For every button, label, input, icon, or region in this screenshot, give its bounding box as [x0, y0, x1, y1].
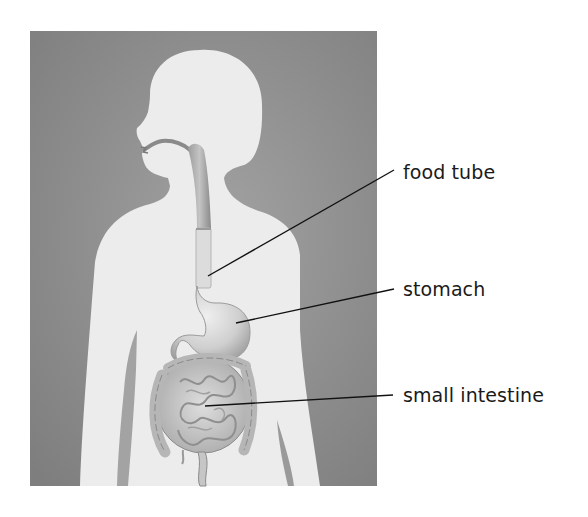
digestive-system-diagram: food tube stomach small intestine — [0, 0, 588, 517]
label-stomach: stomach — [403, 280, 485, 299]
label-food-tube: food tube — [403, 163, 495, 182]
diagram-illustration — [0, 0, 588, 517]
esophagus-lower — [196, 228, 211, 288]
label-small-intestine: small intestine — [403, 386, 544, 405]
